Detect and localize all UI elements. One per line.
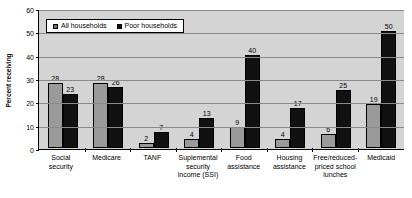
- bar[interactable]: [184, 139, 199, 148]
- bar-value-label: 25: [339, 82, 347, 90]
- x-axis-label-line: assistance: [268, 163, 312, 172]
- y-axis-tick-mark: [36, 57, 39, 58]
- x-axis-tick-mark: [312, 148, 313, 152]
- y-axis-tick-mark: [36, 127, 39, 128]
- x-axis-label-line: Housing: [268, 154, 312, 163]
- bar-value-label: 4: [190, 131, 194, 139]
- gridline: [39, 80, 404, 81]
- x-axis-category-labels: SocialsecurityMedicareTANFSuplementalsec…: [38, 154, 404, 180]
- gridline: [39, 57, 404, 58]
- y-axis-tick-label: 40: [26, 53, 34, 60]
- bar-value-label: 50: [385, 23, 393, 31]
- x-axis-category-label: Foodassistance: [221, 154, 267, 180]
- gridline: [39, 127, 404, 128]
- x-axis-label-line: security: [176, 163, 220, 172]
- x-axis-label-line: Food: [222, 154, 266, 163]
- bar-value-label: 7: [159, 124, 163, 132]
- x-axis-category-label: Medicare: [84, 154, 130, 180]
- bar[interactable]: [336, 90, 351, 148]
- x-axis-category-label: Medicaid: [358, 154, 404, 180]
- x-axis-tick-mark: [130, 148, 131, 152]
- bar[interactable]: [321, 134, 336, 148]
- bar[interactable]: [245, 55, 260, 148]
- x-axis-label-line: Suplemental: [176, 154, 220, 163]
- bar[interactable]: [230, 127, 245, 148]
- x-axis-label-line: assistance: [222, 163, 266, 172]
- y-axis-tick-label: 50: [26, 30, 34, 37]
- bar-value-label: 4: [281, 131, 285, 139]
- x-axis-label-line: Medicaid: [359, 154, 403, 163]
- bar[interactable]: [48, 83, 63, 148]
- bar[interactable]: [290, 108, 305, 148]
- y-axis-title-text: Percent receiving: [5, 53, 12, 107]
- x-axis-label-line: Free/reduced-: [313, 154, 357, 163]
- legend-swatch-icon: [53, 24, 58, 29]
- bar-chart: Percent receiving 0102030405060 28232826…: [0, 0, 412, 198]
- bar[interactable]: [108, 87, 123, 148]
- x-axis-category-label: Free/reduced-priced schoollunches: [312, 154, 358, 180]
- bar-value-label: 23: [66, 86, 74, 94]
- x-axis-label-line: income (SSI): [176, 171, 220, 180]
- x-axis-category-label: Suplementalsecurityincome (SSI): [175, 154, 221, 180]
- legend-item[interactable]: Poor households: [117, 22, 178, 30]
- bar[interactable]: [139, 143, 154, 148]
- x-axis-label-line: TANF: [130, 154, 174, 163]
- y-axis-tick-mark: [36, 150, 39, 151]
- y-axis-tick-label: 20: [26, 100, 34, 107]
- x-axis-label-line: Medicare: [85, 154, 129, 163]
- x-axis-label-line: lunches: [313, 171, 357, 180]
- x-axis-tick-mark: [267, 148, 268, 152]
- bar-value-label: 28: [97, 75, 105, 83]
- x-axis-category-label: Socialsecurity: [38, 154, 84, 180]
- gridline: [39, 103, 404, 104]
- bar-value-label: 13: [203, 110, 211, 118]
- legend-label: All households: [61, 22, 107, 30]
- bar-value-label: 2: [144, 135, 148, 143]
- x-axis-label-line: Social: [39, 154, 83, 163]
- bar[interactable]: [154, 132, 169, 148]
- y-axis-tick-mark: [36, 33, 39, 34]
- gridline: [39, 33, 404, 34]
- legend-item[interactable]: All households: [53, 22, 107, 30]
- bar[interactable]: [275, 139, 290, 148]
- x-axis-label-line: security: [39, 163, 83, 172]
- y-axis-tick-label: 0: [30, 147, 34, 154]
- y-axis-tick-label: 60: [26, 7, 34, 14]
- bar-value-label: 17: [294, 100, 302, 108]
- x-axis-tick-mark: [176, 148, 177, 152]
- x-axis-tick-mark: [221, 148, 222, 152]
- bar[interactable]: [93, 83, 108, 148]
- bar-value-label: 28: [51, 75, 59, 83]
- x-axis-label-line: priced school: [313, 163, 357, 172]
- x-axis-tick-mark: [85, 148, 86, 152]
- x-axis-category-label: Housingassistance: [267, 154, 313, 180]
- y-axis-title: Percent receiving: [2, 0, 14, 160]
- legend-label: Poor households: [125, 22, 178, 30]
- bar-value-label: 40: [248, 47, 256, 55]
- x-axis-tick-mark: [358, 148, 359, 152]
- y-axis-tick-mark: [36, 103, 39, 104]
- chart-legend: All householdsPoor households: [46, 19, 184, 33]
- y-axis-tick-mark: [36, 10, 39, 11]
- y-axis-tick-label: 10: [26, 123, 34, 130]
- y-axis-tick-label: 30: [26, 77, 34, 84]
- bar[interactable]: [199, 118, 214, 148]
- gridline: [39, 10, 404, 11]
- y-axis-tick-mark: [36, 80, 39, 81]
- legend-swatch-icon: [117, 24, 122, 29]
- x-axis-category-label: TANF: [129, 154, 175, 180]
- bar[interactable]: [381, 31, 396, 148]
- y-axis-tick-labels: 0102030405060: [14, 10, 36, 150]
